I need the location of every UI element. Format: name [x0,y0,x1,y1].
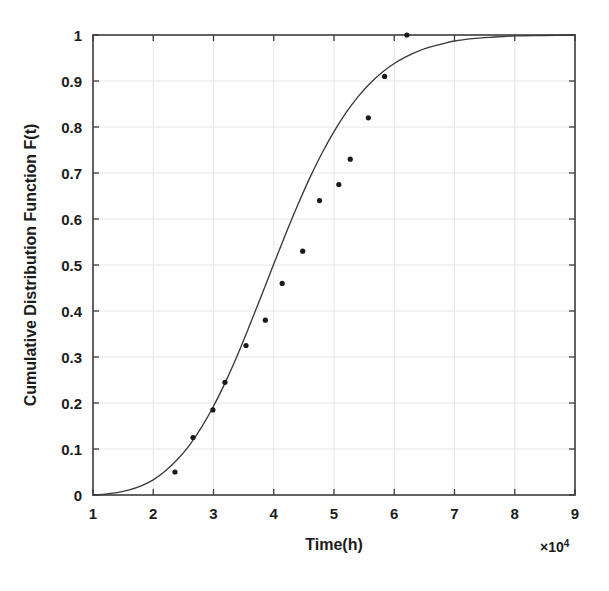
y-tick-label: 0.6 [61,211,82,228]
data-point [317,198,322,203]
x-tick-label: 2 [149,505,157,522]
x-tick-label: 6 [390,505,398,522]
y-tick-label: 0.3 [61,349,82,366]
y-tick-label: 0.4 [61,303,83,320]
x-axis-title: Time(h) [305,536,362,553]
data-point [366,115,371,120]
data-point [336,182,341,187]
x-tick-label: 9 [571,505,579,522]
y-tick-label: 1 [74,27,82,44]
y-tick-label: 0 [74,487,82,504]
data-point [172,469,177,474]
y-tick-label: 0.8 [61,119,82,136]
y-tick-label: 0.7 [61,165,82,182]
y-tick-label: 0.5 [61,257,82,274]
cdf-chart: 12345678900.10.20.30.40.50.60.70.80.91 C… [0,0,609,591]
y-tick-label: 0.2 [61,395,82,412]
y-tick-label: 0.9 [61,73,82,90]
data-point [210,407,215,412]
x-tick-label: 7 [450,505,458,522]
data-point [300,249,305,254]
x-tick-label: 4 [270,505,279,522]
y-axis-title: Cumulative Distribution Function F(t) [22,124,39,407]
data-point [280,281,285,286]
y-tick-label: 0.1 [61,441,82,458]
x-tick-label: 8 [511,505,519,522]
data-point [348,157,353,162]
data-point [190,435,195,440]
data-point [404,32,409,37]
data-point [382,74,387,79]
data-point [263,318,268,323]
figure-container: 12345678900.10.20.30.40.50.60.70.80.91 C… [0,0,609,591]
x-tick-label: 1 [89,505,97,522]
x-tick-label: 3 [209,505,217,522]
x-tick-label: 5 [330,505,338,522]
data-point [243,343,248,348]
chart-background [0,0,609,591]
data-point [222,380,227,385]
